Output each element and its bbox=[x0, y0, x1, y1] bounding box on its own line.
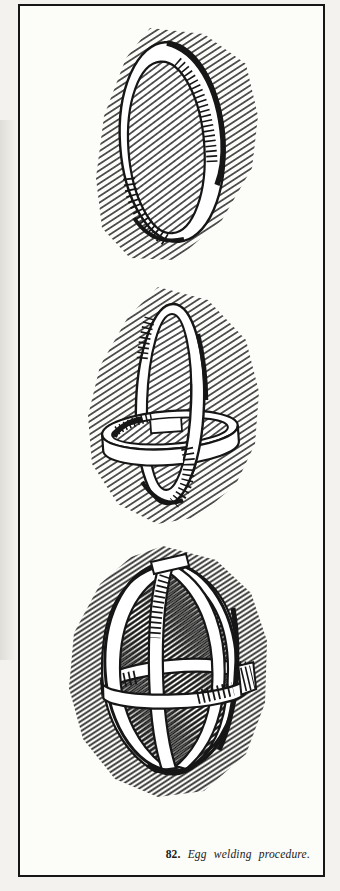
figure-caption-text: Egg welding procedure. bbox=[188, 848, 310, 860]
figure-caption: 82.Egg welding procedure. bbox=[166, 848, 310, 860]
figure-number: 82. bbox=[166, 848, 181, 860]
figure-illustration bbox=[0, 0, 340, 891]
